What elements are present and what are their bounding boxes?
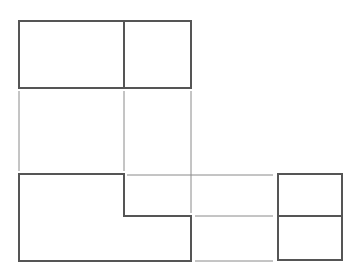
front-view-outline — [19, 174, 191, 261]
projection-lines — [19, 91, 273, 261]
top-view-outline — [19, 21, 191, 88]
top-view — [19, 21, 191, 88]
side-view — [278, 174, 342, 260]
front-view — [19, 174, 191, 261]
views — [19, 21, 342, 261]
orthographic-drawing — [0, 0, 358, 279]
